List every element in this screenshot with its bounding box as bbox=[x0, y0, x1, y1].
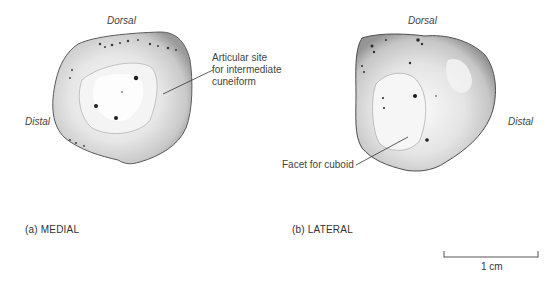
orientation-label-dorsal-medial: Dorsal bbox=[107, 15, 136, 27]
bone-medial-view bbox=[53, 32, 192, 164]
annotation-facet-cuboid: Facet for cuboid bbox=[282, 159, 354, 171]
panel-caption-medial: (a) MEDIAL bbox=[25, 224, 79, 235]
annotation-articular-site: Articular site for intermediate cuneifor… bbox=[212, 52, 281, 88]
annotation-line: cuneiform bbox=[212, 76, 281, 88]
orientation-label-dorsal-lateral: Dorsal bbox=[408, 15, 437, 27]
figure-artwork bbox=[0, 0, 548, 282]
orientation-label-distal-lateral: Distal bbox=[508, 116, 533, 128]
panel-caption-lateral: (b) LATERAL bbox=[292, 224, 353, 235]
bone-lateral-view bbox=[356, 34, 496, 171]
annotation-line: Articular site bbox=[212, 52, 281, 64]
scale-bar-label: 1 cm bbox=[481, 261, 503, 272]
orientation-label-distal-medial: Distal bbox=[25, 116, 50, 128]
annotation-line: for intermediate bbox=[212, 64, 281, 76]
scale-bar bbox=[444, 251, 538, 258]
